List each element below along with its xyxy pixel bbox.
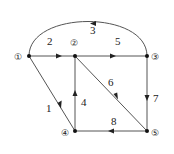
node-3-label: ③	[151, 52, 159, 62]
edge-label-4: 4	[81, 96, 87, 108]
edge-8-arrow	[108, 129, 114, 134]
edge-4-arrow	[73, 90, 78, 96]
edge-label-7: 7	[153, 92, 159, 104]
edge-label-2: 2	[47, 35, 53, 47]
node-5-dot	[145, 129, 149, 133]
node-3-dot	[145, 54, 149, 58]
node-5-label: ⑤	[151, 128, 159, 138]
node-4-label: ④	[61, 128, 69, 138]
edge-label-5: 5	[115, 35, 121, 47]
node-2-dot	[73, 54, 77, 58]
node-1-dot	[27, 54, 31, 58]
edge-label-6: 6	[108, 76, 114, 88]
node-2-label: ②	[70, 38, 78, 48]
edge-label-3: 3	[90, 24, 96, 36]
edge-7-arrow	[145, 95, 150, 101]
edge-1	[29, 56, 75, 131]
node-4-dot	[73, 129, 77, 133]
edge-5-arrow	[110, 54, 116, 59]
edge-label-8: 8	[111, 115, 117, 127]
node-1-label: ①	[14, 52, 22, 62]
edge-2-arrow	[56, 54, 62, 59]
graph-diagram: ① ② ③ ④ ⑤ 1 2 3 4 5 6 7 8	[0, 0, 174, 154]
edge-label-1: 1	[46, 102, 52, 114]
